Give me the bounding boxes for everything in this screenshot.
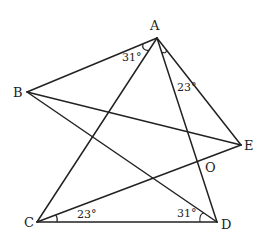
segment-AB — [27, 38, 157, 92]
angle-label-BAC: 31° — [122, 51, 142, 64]
segment-AC — [37, 38, 157, 222]
angle-label-DAE: 23° — [177, 81, 197, 94]
label-O: O — [205, 160, 216, 175]
segments — [27, 38, 241, 222]
segment-BD — [27, 92, 217, 222]
arc-angle-CDB — [200, 213, 204, 222]
segment-AE — [157, 38, 241, 145]
segment-CE — [37, 145, 241, 222]
label-A: A — [149, 18, 160, 33]
label-C: C — [24, 215, 34, 230]
angle-label-ECD: 23° — [77, 208, 97, 221]
angle-label-CDB: 31° — [177, 207, 197, 220]
arc-angle-ECD — [56, 215, 58, 222]
segment-BE — [27, 92, 241, 145]
segment-AD — [157, 38, 217, 222]
label-E: E — [244, 138, 254, 153]
arc-angle-BAC — [143, 44, 149, 51]
label-D: D — [221, 217, 231, 232]
geometry-diagram: A B C D E O 31° 23° 23° 31° — [0, 0, 266, 235]
label-B: B — [13, 85, 23, 100]
